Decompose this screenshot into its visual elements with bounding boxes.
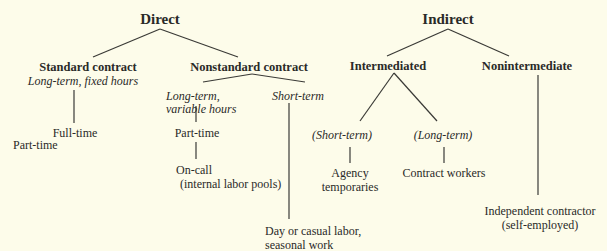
node-independent-contractor-line2: (self-employed) [502, 218, 579, 232]
node-nonstandard-part-time: Part-time [175, 126, 220, 140]
node-nonintermediate: Nonintermediate [482, 59, 572, 73]
node-long-term-variable-line1: Long-term, [166, 89, 220, 103]
node-short-term: Short-term [272, 89, 324, 103]
node-independent-contractor-line1: Independent contractor [485, 204, 596, 218]
node-agency-line1: Agency [331, 166, 368, 180]
node-standard-part-time: Part-time [13, 138, 58, 152]
node-intermediated-long-term: (Long-term) [414, 128, 473, 142]
node-standard-contract: Standard contract [39, 60, 137, 74]
node-standard-sublabel: Long-term, fixed hours [28, 74, 138, 88]
node-direct: Direct [140, 12, 180, 26]
node-full-time: Full-time [53, 126, 98, 140]
node-contract-workers: Contract workers [403, 166, 486, 180]
node-day-labor-line2: seasonal work [265, 238, 333, 251]
node-on-call-line2: (internal labor pools) [180, 177, 281, 191]
node-agency-line2: temporaries [322, 180, 379, 194]
node-indirect: Indirect [422, 12, 473, 26]
node-intermediated-short-term: (Short-term) [312, 128, 372, 142]
node-on-call-line1: On-call [176, 163, 212, 177]
node-intermediated: Intermediated [350, 59, 426, 73]
node-day-labor-line1: Day or casual labor, [265, 224, 361, 238]
node-nonstandard-contract: Nonstandard contract [190, 60, 308, 74]
node-long-term-variable-line2: variable hours [166, 102, 236, 116]
employment-arrangements-tree: Direct Indirect Standard contract Long-t… [0, 0, 607, 251]
